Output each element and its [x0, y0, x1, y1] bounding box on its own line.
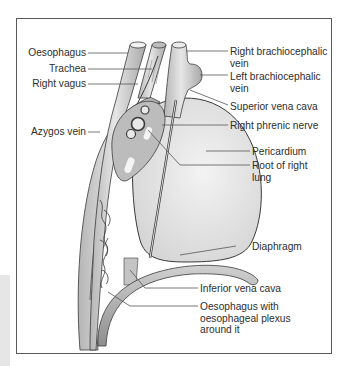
label-superior-vena-cava: Superior vena cava [230, 101, 318, 113]
label-left-brachiocephalic-vein: Left brachiocephalic vein [230, 71, 330, 94]
label-root-of-right-lung: Root of right lung [252, 160, 314, 183]
label-pericardium: Pericardium [252, 146, 306, 158]
label-trachea: Trachea [16, 63, 86, 75]
label-right-vagus: Right vagus [16, 78, 86, 90]
label-diaphragm: Diaphragm [252, 241, 302, 253]
label-oesophagus-with-plexus: Oesophagus with oesophageal plexus aroun… [200, 301, 295, 336]
label-oesophagus: Oesophagus [16, 47, 86, 59]
label-azygos-vein: Azygos vein [16, 126, 86, 138]
label-inferior-vena-cava: Inferior vena cava [200, 283, 281, 295]
label-right-brachiocephalic-vein: Right brachiocephalic vein [230, 46, 330, 69]
label-right-phrenic-nerve: Right phrenic nerve [230, 120, 318, 132]
